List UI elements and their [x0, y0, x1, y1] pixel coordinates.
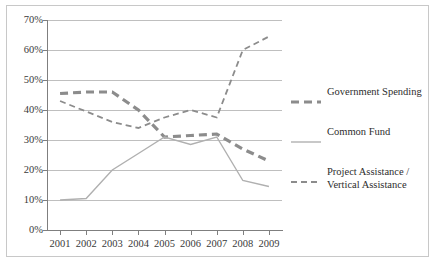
y-axis-tick-label: 70%: [5, 14, 43, 25]
legend-swatch-icon: [291, 171, 321, 175]
y-axis-labels: 0%10%20%30%40%50%60%70%: [0, 0, 43, 267]
legend-item[interactable]: Government Spending: [291, 86, 423, 100]
legend-item[interactable]: Common Fund: [291, 126, 423, 140]
x-axis-tick: [269, 231, 270, 235]
y-axis-tick-label: 0%: [5, 224, 43, 235]
y-axis-tick-label: 20%: [5, 164, 43, 175]
legend-item-label: Project Assistance /Vertical Assistance: [327, 166, 423, 191]
series-plot: [47, 20, 282, 231]
y-axis-tick-label: 40%: [5, 104, 43, 115]
chart-legend: Government SpendingCommon FundProject As…: [291, 86, 423, 217]
legend-swatch-icon: [291, 131, 321, 135]
y-axis-tick-label: 30%: [5, 134, 43, 145]
x-axis-tick: [112, 231, 113, 235]
y-axis-tick-label: 60%: [5, 44, 43, 55]
x-axis-tick: [165, 231, 166, 235]
x-axis-tick: [138, 231, 139, 235]
series-line-2: [60, 37, 269, 129]
legend-swatch-icon: [291, 91, 321, 95]
legend-item-label: Government Spending: [327, 86, 423, 99]
y-axis-tick-label: 10%: [5, 194, 43, 205]
x-axis-tick: [243, 231, 244, 235]
x-axis-tick: [86, 231, 87, 235]
series-line-0: [60, 92, 269, 161]
x-axis-tick: [217, 231, 218, 235]
x-axis-tick: [191, 231, 192, 235]
chart-container: 0%10%20%30%40%50%60%70% 2001200220032004…: [0, 0, 435, 267]
legend-item[interactable]: Project Assistance /Vertical Assistance: [291, 166, 423, 191]
y-axis-tick-label: 50%: [5, 74, 43, 85]
x-axis-tick: [60, 231, 61, 235]
x-axis-tick-label: 2009: [252, 238, 286, 250]
legend-item-label: Common Fund: [327, 126, 423, 139]
